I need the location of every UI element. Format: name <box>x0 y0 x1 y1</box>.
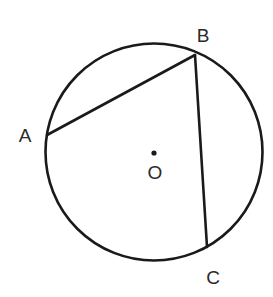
chord-ab <box>47 55 195 135</box>
center-label-o: O <box>148 162 163 183</box>
point-label-b: B <box>197 25 210 46</box>
point-label-c: C <box>206 267 220 288</box>
chord-bc <box>195 55 207 247</box>
point-label-a: A <box>19 125 32 146</box>
circle-diagram: A B C O <box>0 0 273 297</box>
center-point-o <box>151 150 156 155</box>
